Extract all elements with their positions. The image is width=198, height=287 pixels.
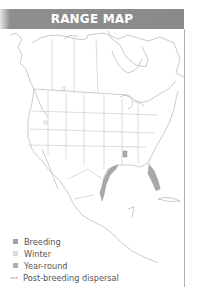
header-title: RANGE MAP [0,12,184,26]
legend-item-post-breeding-dispersal: ••• Post-breeding dispersal [10,272,119,283]
breeding-swatch-icon [13,239,18,244]
winter-swatch-icon [13,251,18,256]
map-legend: Breeding Winter Year-round ••• Post-bree… [10,236,119,284]
dispersal-dots-icon: ••• [10,274,19,281]
legend-item-winter: Winter [10,248,119,259]
legend-item-breeding: Breeding [10,236,119,247]
range-map-header: RANGE MAP [0,9,184,29]
year-round-swatch-icon [13,263,18,268]
legend-item-year-round: Year-round [10,260,119,271]
